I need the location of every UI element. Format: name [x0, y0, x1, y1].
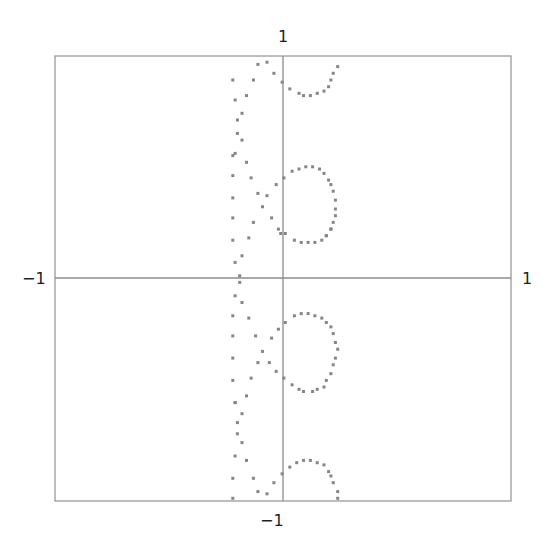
- data-point: [332, 481, 335, 484]
- data-point: [298, 92, 301, 95]
- data-point: [272, 481, 275, 484]
- data-point: [329, 475, 332, 478]
- data-point: [336, 348, 339, 351]
- data-point: [325, 234, 328, 237]
- data-point: [231, 216, 234, 219]
- data-point: [323, 90, 326, 93]
- data-point: [231, 334, 234, 337]
- data-point: [275, 183, 278, 186]
- data-point: [323, 463, 326, 466]
- data-point: [329, 325, 332, 328]
- data-point: [256, 361, 259, 364]
- data-point: [288, 466, 291, 469]
- data-point: [275, 370, 278, 373]
- data-point: [281, 472, 284, 475]
- data-point: [323, 172, 326, 175]
- data-point: [327, 85, 330, 88]
- data-point: [327, 470, 330, 473]
- data-point: [327, 179, 330, 182]
- data-point: [250, 377, 253, 380]
- data-point: [256, 192, 259, 195]
- data-point: [298, 168, 301, 171]
- data-point: [241, 441, 244, 444]
- data-point: [332, 221, 335, 224]
- data-point: [270, 337, 273, 340]
- data-point: [231, 314, 234, 317]
- data-point: [241, 112, 244, 115]
- data-point: [293, 239, 296, 242]
- data-point: [234, 261, 237, 264]
- data-point: [318, 168, 321, 171]
- data-point: [231, 174, 234, 177]
- data-point: [231, 154, 234, 157]
- data-point: [334, 199, 337, 202]
- data-point: [329, 372, 332, 375]
- data-point: [336, 65, 339, 68]
- data-point: [293, 314, 296, 317]
- data-point: [304, 165, 307, 168]
- data-point: [234, 455, 237, 458]
- data-point: [281, 81, 284, 84]
- data-point: [295, 461, 298, 464]
- data-point: [234, 401, 237, 404]
- data-point: [313, 241, 316, 244]
- data-point: [266, 61, 269, 64]
- data-point: [311, 390, 314, 393]
- data-point: [236, 119, 239, 122]
- data-point: [284, 232, 287, 235]
- data-point: [231, 357, 234, 360]
- data-point: [309, 94, 312, 97]
- data-point: [236, 132, 239, 135]
- data-point: [332, 190, 335, 193]
- data-point: [270, 216, 273, 219]
- scatter-plot: [0, 0, 553, 548]
- data-point: [329, 79, 332, 82]
- data-point: [332, 363, 335, 366]
- data-point: [231, 239, 234, 242]
- data-point: [256, 490, 259, 493]
- data-point: [245, 459, 248, 462]
- data-point: [284, 321, 287, 324]
- data-point: [236, 432, 239, 435]
- data-point: [282, 176, 285, 179]
- data-point: [268, 361, 271, 364]
- data-point: [316, 388, 319, 391]
- data-point: [300, 241, 303, 244]
- data-point: [282, 377, 285, 380]
- data-point: [313, 314, 316, 317]
- data-point: [231, 477, 234, 480]
- data-point: [245, 394, 248, 397]
- data-point: [336, 490, 339, 493]
- data-point: [236, 421, 239, 424]
- data-point: [334, 357, 337, 360]
- data-point: [320, 239, 323, 242]
- data-point: [332, 72, 335, 75]
- data-point: [238, 274, 241, 277]
- data-point: [307, 312, 310, 315]
- data-point: [311, 165, 314, 168]
- data-point: [329, 228, 332, 231]
- data-point: [252, 79, 255, 82]
- data-point: [241, 412, 244, 415]
- data-point: [334, 214, 337, 217]
- data-point: [302, 459, 305, 462]
- data-point: [245, 161, 248, 164]
- data-point: [291, 170, 294, 173]
- data-point: [279, 232, 282, 235]
- data-point: [231, 79, 234, 82]
- data-point: [261, 205, 264, 208]
- data-point: [277, 228, 280, 231]
- data-point: [298, 388, 301, 391]
- data-point: [247, 317, 250, 320]
- data-point: [261, 350, 264, 353]
- data-point: [334, 208, 337, 211]
- data-point: [316, 92, 319, 95]
- data-point: [320, 317, 323, 320]
- data-point: [256, 63, 259, 66]
- y-min-label: −1: [260, 513, 284, 529]
- data-point: [252, 477, 255, 480]
- data-point: [307, 241, 310, 244]
- data-point: [234, 99, 237, 102]
- data-point: [332, 332, 335, 335]
- x-min-label: −1: [22, 271, 46, 287]
